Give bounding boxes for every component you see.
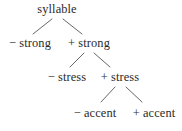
edge-plus-strong-to-plus-stress xyxy=(94,53,110,67)
tree-node-plus-stress: + stress xyxy=(101,71,139,84)
tree-node-plus-strong-label: + strong xyxy=(68,36,110,50)
tree-node-plus-accent-label: + accent xyxy=(133,106,176,120)
edge-plus-strong-to-minus-stress xyxy=(70,53,84,67)
tree-node-syllable-label: syllable xyxy=(37,2,76,16)
edge-root-to-minus-strong xyxy=(33,19,52,34)
tree-node-plus-accent: + accent xyxy=(133,107,176,120)
tree-node-plus-stress-label: + stress xyxy=(101,70,139,84)
tree-node-minus-accent: − accent xyxy=(74,107,117,120)
edge-plus-stress-to-plus-accent xyxy=(126,87,142,102)
tree-node-minus-strong-label: − strong xyxy=(9,36,51,50)
edge-plus-stress-to-minus-accent xyxy=(101,87,115,102)
tree-node-syllable: syllable xyxy=(37,3,76,16)
edge-root-to-plus-strong xyxy=(63,19,82,34)
tree-node-minus-stress-label: − stress xyxy=(48,70,86,84)
tree-node-minus-accent-label: − accent xyxy=(74,106,117,120)
tree-node-plus-strong: + strong xyxy=(68,37,110,50)
tree-node-minus-strong: − strong xyxy=(9,37,51,50)
syllable-feature-tree-diagram: syllable − strong + strong − stress + st… xyxy=(0,0,182,131)
tree-node-minus-stress: − stress xyxy=(48,71,86,84)
